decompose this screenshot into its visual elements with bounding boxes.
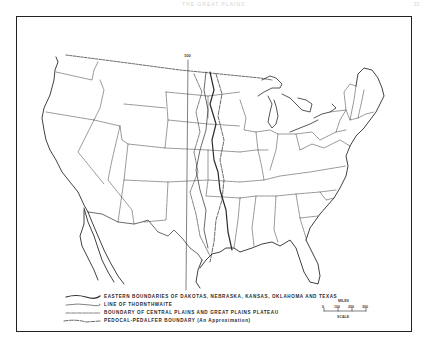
thornthwaite-line (196, 72, 208, 248)
legend-label: BOUNDARY OF CENTRAL PLAINS AND GREAT PLA… (104, 309, 279, 317)
scale: MILES 0 100 200 300 SCALE (322, 299, 368, 321)
scale-title: SCALE (337, 315, 349, 319)
legend-label: EASTERN BOUNDARIES OF DAKOTAS, NEBRASKA,… (104, 293, 337, 301)
state-boundaries (46, 62, 374, 248)
legend-item: LINE OF THORNTHWAITE (62, 301, 322, 309)
central-plains-boundary (190, 74, 210, 256)
legend-item: BOUNDARY OF CENTRAL PLAINS AND GREAT PLA… (62, 309, 322, 317)
legend-item: PEDOCAL-PEDALFER BOUNDARY (An Approximat… (62, 317, 322, 325)
legend-item: EASTERN BOUNDARIES OF DAKOTAS, NEBRASKA,… (62, 293, 322, 301)
scale-tick: 300 (362, 305, 368, 309)
meridian-label: 100 (184, 53, 191, 58)
national-outline (42, 55, 384, 288)
scale-tick: 200 (348, 305, 354, 309)
great-lakes (258, 76, 336, 132)
legend-label: PEDOCAL-PEDALFER BOUNDARY (An Approximat… (104, 317, 251, 325)
scale-tick: 0 (322, 305, 324, 309)
legend-label: LINE OF THORNTHWAITE (104, 301, 172, 309)
scale-unit: MILES (338, 299, 349, 303)
scale-tick: 100 (334, 305, 340, 309)
meridian-100 (186, 60, 188, 290)
